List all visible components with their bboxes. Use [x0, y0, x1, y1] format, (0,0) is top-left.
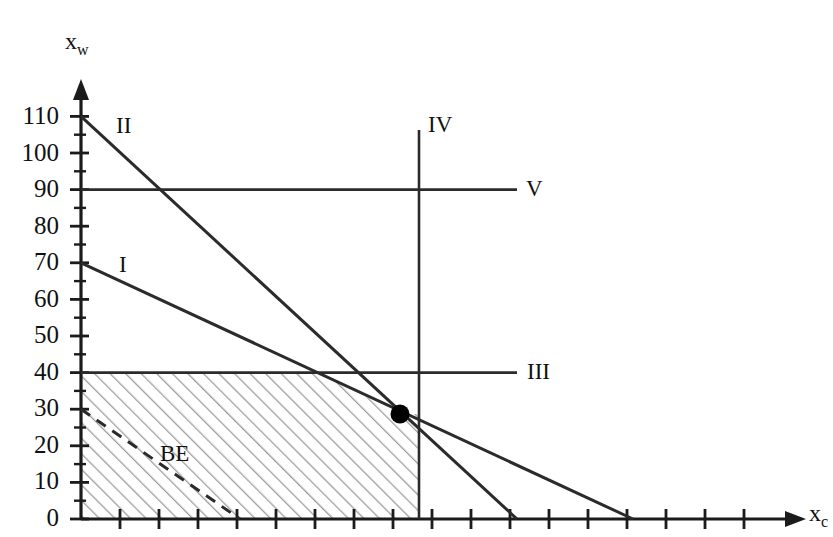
y-tick-label-40: 40 — [7, 358, 59, 386]
y-tick-label-70: 70 — [7, 248, 59, 276]
curve-label-BE: BE — [160, 441, 189, 467]
y-tick-label-100: 100 — [0, 139, 59, 167]
y-tick-label-30: 30 — [7, 394, 59, 422]
y-axis-title-subscript: w — [77, 41, 89, 58]
curve-label-III: III — [527, 359, 550, 385]
y-tick-label-60: 60 — [7, 285, 59, 313]
y-tick-label-80: 80 — [7, 212, 59, 240]
x-axis-title: xc — [809, 500, 828, 531]
y-tick-label-20: 20 — [7, 431, 59, 459]
y-tick-label-10: 10 — [7, 467, 59, 495]
curve-label-I: I — [119, 252, 127, 278]
x-axis-title-base: x — [809, 500, 821, 526]
y-axis-arrowhead — [73, 79, 89, 100]
curve-label-V: V — [526, 176, 543, 202]
y-axis-title-base: x — [65, 28, 77, 54]
x-axis-title-subscript: c — [821, 513, 828, 530]
y-axis-title: xw — [65, 28, 89, 59]
y-tick-label-110: 110 — [0, 102, 59, 130]
curve-label-IV: IV — [428, 112, 452, 138]
curve-label-II: II — [116, 113, 131, 139]
optimum-point-marker — [391, 405, 410, 424]
y-tick-label-90: 90 — [7, 175, 59, 203]
x-axis-arrowhead — [785, 511, 806, 527]
y-tick-label-0: 0 — [7, 504, 59, 532]
chart-figure: 0 10 20 30 40 50 60 70 80 90 100 110 II … — [0, 0, 833, 537]
y-tick-label-50: 50 — [7, 321, 59, 349]
